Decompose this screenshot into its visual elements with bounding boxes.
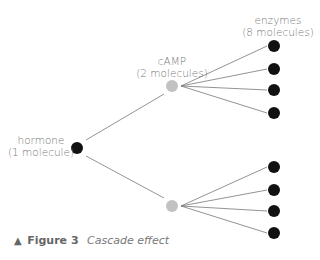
camp-node [166, 80, 178, 92]
enzyme-node [268, 40, 280, 52]
camp-node [166, 200, 178, 212]
enzyme-node [268, 107, 280, 119]
hormone-label: hormone (1 molecule) [8, 134, 74, 158]
camp-count: (2 molecules) [130, 67, 214, 79]
figure-number: Figure 3 [27, 234, 78, 247]
edge-hormone-camp [86, 156, 164, 198]
enzymes-title: enzymes [236, 14, 320, 26]
figure-caption: ▲ Figure 3 Cascade effect [14, 234, 169, 247]
edge-camp-enzyme [181, 190, 267, 206]
enzyme-node [268, 184, 280, 196]
edge-camp-enzyme [181, 86, 267, 113]
enzyme-node [268, 205, 280, 217]
edge-camp-enzyme [181, 86, 267, 90]
hormone-count: (1 molecule) [8, 146, 74, 158]
enzyme-node [268, 227, 280, 239]
enzymes-label: enzymes (8 molecules) [236, 14, 320, 38]
triangle-icon: ▲ [14, 235, 22, 246]
enzyme-node [268, 63, 280, 75]
camp-title: cAMP [130, 55, 214, 67]
enzyme-node [268, 161, 280, 173]
edge-hormone-camp [86, 94, 164, 140]
edge-camp-enzyme [181, 167, 267, 206]
hormone-title: hormone [8, 134, 74, 146]
cascade-diagram [0, 0, 320, 260]
enzymes-count: (8 molecules) [236, 26, 320, 38]
enzyme-node [268, 84, 280, 96]
figure-title: Cascade effect [87, 234, 169, 247]
camp-label: cAMP (2 molecules) [130, 55, 214, 79]
